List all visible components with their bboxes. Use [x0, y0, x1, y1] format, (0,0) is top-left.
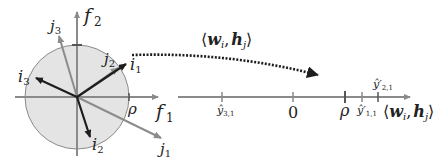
inner-product-label-top: ⟨wi,hj⟩: [201, 30, 252, 50]
label-j1: j1: [157, 140, 171, 159]
f1-axis-label: f1: [154, 100, 174, 125]
rho-label-left: ρ: [127, 100, 137, 118]
label-j2: j2: [101, 50, 115, 69]
tick-label-y21-prime: ŷ′2,1: [372, 78, 393, 92]
label-j3: j3: [47, 17, 61, 36]
tick-label-y31: ŷ3,1: [216, 104, 234, 118]
tick-label-rho: ρ: [339, 101, 350, 120]
mapping-arrow: ⟨wi,hj⟩: [132, 30, 318, 75]
tick-label-y11-prime: ŷ′1,1: [356, 104, 377, 118]
label-i3: i3: [18, 67, 30, 87]
embedding-diagram: f2 f1 ρ j3 j2 i1 i3 i2 j1 ⟨wi,hj⟩ ŷ3,1 0…: [0, 0, 448, 163]
embedding-space-panel: f2 f1 ρ j3 j2 i1 i3 i2 j1: [15, 4, 174, 159]
score-number-line: ŷ3,1 0 ρ ŷ′1,1 ŷ′2,1 ⟨wi,hj⟩: [178, 78, 434, 122]
label-i1: i1: [130, 55, 142, 75]
number-line-axis-label: ⟨wi,hj⟩: [383, 102, 434, 122]
tick-label-zero: 0: [288, 103, 298, 122]
f2-axis-label: f2: [82, 4, 102, 29]
dotted-curve: [132, 55, 318, 75]
